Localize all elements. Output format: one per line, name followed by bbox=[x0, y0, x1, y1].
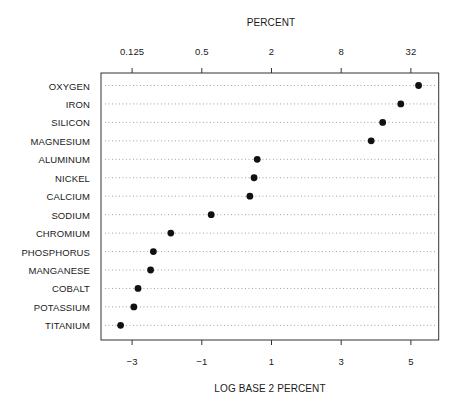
top-axis-title: PERCENT bbox=[247, 17, 295, 28]
category-label: OXYGEN bbox=[49, 80, 90, 91]
category-label: CALCIUM bbox=[47, 191, 90, 202]
data-point bbox=[117, 322, 124, 329]
data-point bbox=[246, 193, 253, 200]
data-point bbox=[135, 285, 142, 292]
data-point bbox=[415, 82, 422, 89]
bottom-tick-label: −3 bbox=[127, 356, 138, 367]
category-label: POTASSIUM bbox=[34, 301, 90, 312]
plot-area bbox=[0, 0, 460, 410]
data-point bbox=[208, 211, 215, 218]
data-point bbox=[397, 101, 404, 108]
top-tick-label: 0.125 bbox=[120, 46, 144, 57]
data-point bbox=[130, 304, 137, 311]
category-label: SILICON bbox=[51, 117, 90, 128]
data-point bbox=[254, 156, 261, 163]
category-label: TITANIUM bbox=[45, 320, 90, 331]
plot-frame bbox=[101, 73, 439, 340]
top-tick-label: 8 bbox=[338, 46, 343, 57]
category-label: MAGNESIUM bbox=[31, 135, 91, 146]
data-point bbox=[167, 230, 174, 237]
data-point bbox=[368, 137, 375, 144]
bottom-tick-label: −1 bbox=[196, 356, 207, 367]
data-point bbox=[251, 174, 258, 181]
top-tick-label: 32 bbox=[406, 46, 417, 57]
dot-plot: PERCENT LOG BASE 2 PERCENT −3−11350.1250… bbox=[0, 0, 460, 410]
category-label: MANGANESE bbox=[28, 265, 90, 276]
category-label: COBALT bbox=[52, 283, 90, 294]
category-label: SODIUM bbox=[51, 209, 90, 220]
category-label: CHROMIUM bbox=[36, 228, 90, 239]
bottom-tick-label: 5 bbox=[408, 356, 413, 367]
category-label: PHOSPHORUS bbox=[21, 246, 90, 257]
top-tick-label: 2 bbox=[269, 46, 274, 57]
top-tick-label: 0.5 bbox=[195, 46, 209, 57]
category-label: NICKEL bbox=[55, 172, 90, 183]
bottom-tick-label: 3 bbox=[338, 356, 343, 367]
bottom-axis-title: LOG BASE 2 PERCENT bbox=[214, 383, 325, 394]
data-point bbox=[150, 248, 157, 255]
category-label: ALUMINUM bbox=[39, 154, 90, 165]
data-point bbox=[379, 119, 386, 126]
category-label: IRON bbox=[66, 98, 90, 109]
bottom-tick-label: 1 bbox=[269, 356, 274, 367]
data-point bbox=[147, 267, 154, 274]
